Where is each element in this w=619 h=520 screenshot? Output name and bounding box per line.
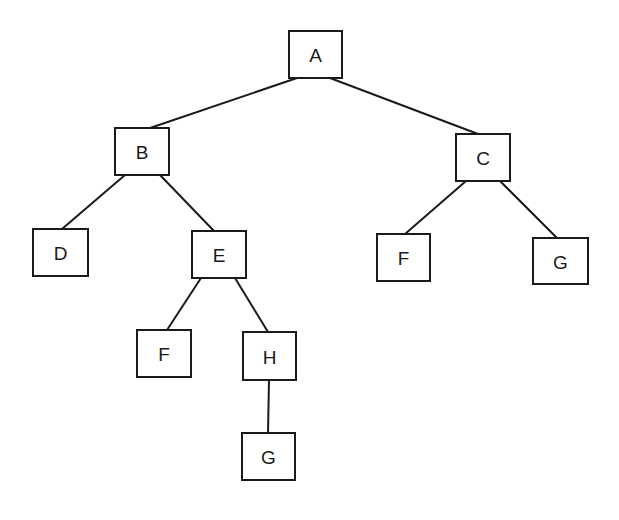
node-b: B <box>115 128 169 175</box>
edge-e-f1 <box>167 278 201 330</box>
node-label: D <box>54 243 68 264</box>
node-label: G <box>553 252 568 273</box>
node-label: C <box>476 148 490 169</box>
edge-c-g2 <box>500 181 557 238</box>
node-label: E <box>213 245 226 266</box>
node-g1: G <box>242 433 295 480</box>
node-label: F <box>398 248 410 269</box>
node-label: B <box>136 142 149 163</box>
edge-e-h <box>235 278 268 332</box>
edge-h-g1 <box>268 380 269 433</box>
edge-b-d <box>62 175 125 229</box>
node-label: H <box>263 347 277 368</box>
node-h: H <box>243 332 296 380</box>
edge-c-f2 <box>405 181 466 234</box>
edge-b-e <box>160 175 214 231</box>
node-label: F <box>158 344 170 365</box>
node-g2: G <box>533 238 588 284</box>
tree-diagram: ABCDEFHGFG <box>0 0 619 520</box>
edge-a-c <box>330 78 478 134</box>
node-a: A <box>289 31 342 78</box>
node-f1: F <box>137 330 191 377</box>
node-e: E <box>192 231 246 278</box>
node-c: C <box>456 134 510 181</box>
node-label: G <box>261 447 276 468</box>
tree-nodes: ABCDEFHGFG <box>33 31 588 480</box>
node-label: A <box>309 45 322 66</box>
node-f2: F <box>377 234 430 281</box>
node-d: D <box>33 229 88 276</box>
edge-a-b <box>150 78 297 128</box>
